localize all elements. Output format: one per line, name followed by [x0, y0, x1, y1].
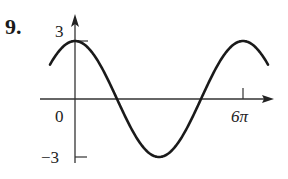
origin-label: 0 — [55, 107, 64, 126]
y-min-label: −3 — [41, 148, 59, 167]
graph: 3 0 −3 6π — [0, 0, 288, 179]
y-max-label: 3 — [55, 22, 64, 41]
problem-figure: 9. 3 0 −3 6π — [0, 0, 288, 179]
x-end-label: 6π — [231, 107, 249, 126]
